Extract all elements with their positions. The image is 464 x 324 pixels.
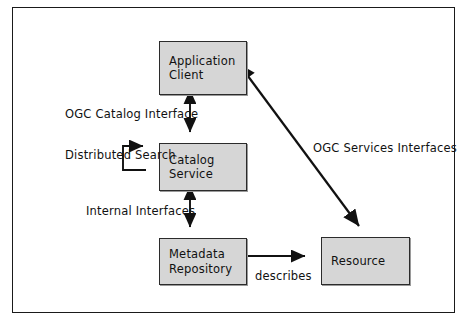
- diagram-canvas: Catalog Service --> Metadata Repository …: [0, 0, 464, 324]
- node-metadata-repository-line2: Repository: [169, 262, 246, 277]
- label-internal-interfaces: Internal Interfaces: [86, 204, 195, 219]
- node-metadata-repository[interactable]: Metadata Repository: [159, 238, 247, 285]
- node-application-client-line1: Application: [169, 54, 246, 69]
- node-resource-line1: Resource: [331, 254, 409, 269]
- label-distributed-search-line1: Distributed: [65, 148, 131, 162]
- label-ogc-services-interfaces: OGC Services Interfaces: [313, 141, 457, 156]
- label-distributed-search: Distributed Search: [65, 148, 176, 163]
- node-catalog-service-line2: Service: [169, 167, 246, 182]
- node-metadata-repository-line1: Metadata: [169, 247, 246, 262]
- node-application-client[interactable]: Application Client: [159, 41, 247, 95]
- label-ogc-catalog-interface: OGC Catalog Interface: [65, 107, 198, 122]
- figure-frame: Catalog Service --> Metadata Repository …: [12, 7, 455, 313]
- node-resource[interactable]: Resource: [321, 237, 410, 285]
- node-application-client-line2: Client: [169, 68, 246, 83]
- label-distributed-search-line2: Search: [135, 148, 176, 162]
- label-describes: describes: [255, 269, 312, 284]
- node-catalog-service-line1: Catalog: [169, 153, 246, 168]
